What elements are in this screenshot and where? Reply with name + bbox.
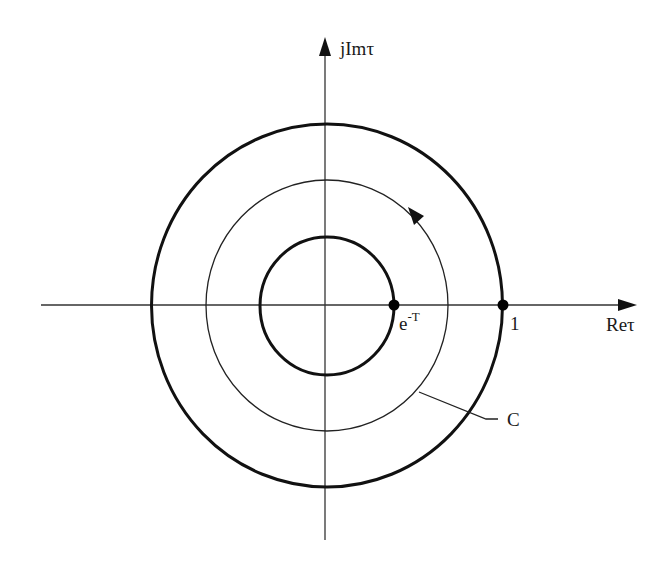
- point-e-minus-T-label: e-T: [399, 309, 420, 334]
- point-one-label: 1: [510, 313, 520, 334]
- inner-circle: [260, 237, 394, 375]
- direction-arrow-icon: [408, 207, 424, 225]
- imaginary-axis-label: jImτ: [339, 38, 374, 59]
- complex-plane-diagram: jImτ Reτ e-T 1 C: [0, 0, 667, 566]
- imaginary-axis: [319, 37, 331, 540]
- contour-C-leader-line: [419, 392, 498, 419]
- point-e-minus-T: [389, 300, 400, 311]
- real-axis: [41, 299, 637, 311]
- contour-C-label: C: [507, 409, 520, 430]
- real-axis-label: Reτ: [606, 314, 635, 335]
- real-axis-arrow-icon: [618, 299, 637, 311]
- point-one: [498, 300, 509, 311]
- imaginary-axis-arrow-icon: [319, 37, 331, 56]
